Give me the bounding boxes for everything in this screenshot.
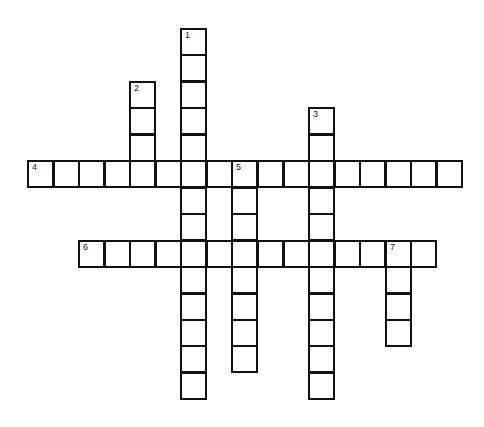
crossword-cell[interactable]: 6 <box>78 240 105 268</box>
crossword-cell[interactable] <box>180 372 207 400</box>
crossword-cell[interactable] <box>231 187 258 215</box>
clue-number: 1 <box>185 30 190 40</box>
crossword-cell[interactable] <box>231 319 258 347</box>
crossword-cell[interactable] <box>180 134 207 162</box>
crossword-cell[interactable] <box>308 240 335 268</box>
crossword-cell[interactable] <box>206 160 233 188</box>
crossword-cell[interactable] <box>180 54 207 82</box>
crossword-cell[interactable] <box>180 345 207 373</box>
crossword-cell[interactable] <box>180 187 207 215</box>
crossword-cell[interactable] <box>231 345 258 373</box>
clue-number: 2 <box>134 83 139 93</box>
crossword-cell[interactable] <box>359 240 386 268</box>
crossword-cell[interactable] <box>334 160 361 188</box>
crossword-cell[interactable] <box>334 240 361 268</box>
crossword-cell[interactable] <box>308 187 335 215</box>
crossword-cell[interactable] <box>410 160 437 188</box>
crossword-cell[interactable] <box>180 319 207 347</box>
crossword-cell[interactable] <box>180 293 207 321</box>
crossword-cell[interactable] <box>308 319 335 347</box>
crossword-cell[interactable] <box>385 266 412 294</box>
crossword-cell[interactable] <box>180 266 207 294</box>
crossword-cell[interactable] <box>231 293 258 321</box>
crossword-cell[interactable] <box>308 345 335 373</box>
crossword-cell[interactable] <box>257 240 284 268</box>
crossword-grid: 1234567 <box>0 0 484 427</box>
crossword-cell[interactable]: 3 <box>308 107 335 135</box>
crossword-cell[interactable] <box>180 107 207 135</box>
clue-number: 7 <box>390 242 395 252</box>
crossword-cell[interactable]: 2 <box>129 81 156 109</box>
crossword-cell[interactable] <box>180 160 207 188</box>
clue-number: 4 <box>32 162 37 172</box>
crossword-cell[interactable] <box>410 240 437 268</box>
clue-number: 3 <box>313 109 318 119</box>
crossword-cell[interactable] <box>104 160 131 188</box>
crossword-cell[interactable] <box>129 160 156 188</box>
crossword-cell[interactable] <box>231 213 258 241</box>
crossword-cell[interactable] <box>308 372 335 400</box>
crossword-cell[interactable] <box>436 160 463 188</box>
crossword-cell[interactable] <box>308 160 335 188</box>
crossword-cell[interactable] <box>206 240 233 268</box>
crossword-cell[interactable] <box>308 134 335 162</box>
crossword-cell[interactable] <box>308 293 335 321</box>
crossword-cell[interactable] <box>283 240 310 268</box>
crossword-cell[interactable] <box>180 240 207 268</box>
crossword-cell[interactable] <box>155 240 182 268</box>
crossword-cell[interactable] <box>129 134 156 162</box>
crossword-cell[interactable] <box>129 107 156 135</box>
crossword-cell[interactable] <box>385 160 412 188</box>
crossword-cell[interactable]: 1 <box>180 28 207 56</box>
crossword-cell[interactable] <box>53 160 80 188</box>
crossword-cell[interactable] <box>180 213 207 241</box>
crossword-cell[interactable] <box>308 213 335 241</box>
crossword-cell[interactable] <box>78 160 105 188</box>
crossword-cell[interactable] <box>129 240 156 268</box>
crossword-cell[interactable] <box>231 240 258 268</box>
crossword-cell[interactable] <box>257 160 284 188</box>
crossword-cell[interactable] <box>283 160 310 188</box>
clue-number: 6 <box>83 242 88 252</box>
crossword-cell[interactable] <box>155 160 182 188</box>
crossword-cell[interactable] <box>385 293 412 321</box>
clue-number: 5 <box>236 162 241 172</box>
crossword-cell[interactable] <box>308 266 335 294</box>
crossword-cell[interactable] <box>104 240 131 268</box>
crossword-cell[interactable]: 4 <box>27 160 54 188</box>
crossword-cell[interactable]: 5 <box>231 160 258 188</box>
crossword-cell[interactable] <box>231 266 258 294</box>
crossword-cell[interactable]: 7 <box>385 240 412 268</box>
crossword-cell[interactable] <box>385 319 412 347</box>
crossword-cell[interactable] <box>180 81 207 109</box>
crossword-cell[interactable] <box>359 160 386 188</box>
